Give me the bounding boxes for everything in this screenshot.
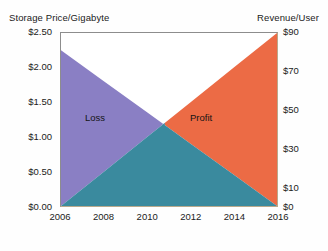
left-tick-2: $1.50 [28,96,52,107]
right-tick-0: $90 [283,26,299,37]
x-tick-0: 2006 [44,211,76,222]
right-tick-3: $30 [283,143,299,154]
left-tick-4: $0.50 [28,166,52,177]
x-tick-2: 2010 [131,211,163,222]
x-tick-1: 2008 [88,211,120,222]
profit-label: Profit [190,112,212,123]
right-tick-4: $10 [283,182,299,193]
right-tick-2: $50 [283,104,299,115]
x-tick-4: 2014 [218,211,250,222]
left-axis-title: Storage Price/Gigabyte [9,12,109,23]
left-tick-3: $1.00 [28,131,52,142]
x-tick-5: 2016 [262,211,294,222]
loss-label: Loss [85,112,105,123]
x-tick-3: 2012 [175,211,207,222]
chart-figure: Storage Price/Gigabyte Revenue/User Loss… [0,0,328,251]
right-axis-title: Revenue/User [257,12,319,23]
right-tick-1: $70 [283,65,299,76]
left-tick-1: $2.00 [28,61,52,72]
left-tick-0: $2.50 [28,26,52,37]
